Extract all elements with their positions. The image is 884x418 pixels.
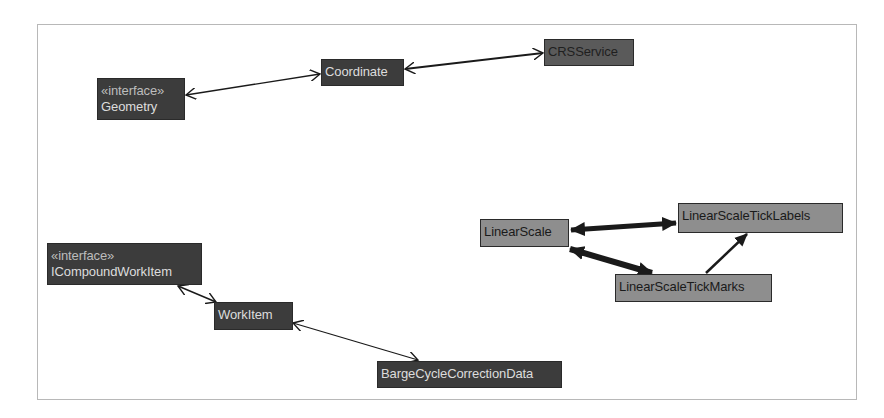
node-label: ICompoundWorkItem <box>51 264 198 280</box>
node-stereotype: «interface» <box>51 248 198 264</box>
node-linearscale[interactable]: LinearScale <box>480 219 569 247</box>
node-coordinate[interactable]: Coordinate <box>321 59 404 86</box>
edge-workitem-bargecyclecorrectiondata[interactable] <box>293 323 418 360</box>
node-label: LinearScale <box>484 224 565 240</box>
node-linearscaleticklabels[interactable]: LinearScaleTickLabels <box>678 203 843 233</box>
node-label: CRSService <box>548 44 630 60</box>
edge-linearscale-tickmarks[interactable] <box>570 249 652 273</box>
edge-tickmarks-ticklabels[interactable] <box>706 234 747 273</box>
edge-linearscale-ticklabels[interactable] <box>571 223 676 230</box>
edge-icompoundworkitem-workitem[interactable] <box>178 286 216 302</box>
node-label: LinearScaleTickMarks <box>619 279 768 295</box>
edge-coordinate-crsservice[interactable] <box>405 53 543 69</box>
node-label: BargeCycleCorrectionData <box>381 366 558 382</box>
node-label: Geometry <box>101 99 181 115</box>
edge-geometry-coordinate[interactable] <box>186 74 320 95</box>
node-bargecyclecorrectiondata[interactable]: BargeCycleCorrectionData <box>377 361 562 388</box>
node-linearscaletickmarks[interactable]: LinearScaleTickMarks <box>615 274 772 302</box>
node-crsservice[interactable]: CRSService <box>544 39 634 66</box>
node-label: LinearScaleTickLabels <box>682 208 839 224</box>
node-stereotype: «interface» <box>101 83 181 99</box>
node-workitem[interactable]: WorkItem <box>214 302 293 330</box>
node-label: WorkItem <box>218 307 289 323</box>
node-label: Coordinate <box>325 64 400 80</box>
node-geometry[interactable]: «interface» Geometry <box>97 78 185 120</box>
node-icompoundworkitem[interactable]: «interface» ICompoundWorkItem <box>47 243 202 285</box>
